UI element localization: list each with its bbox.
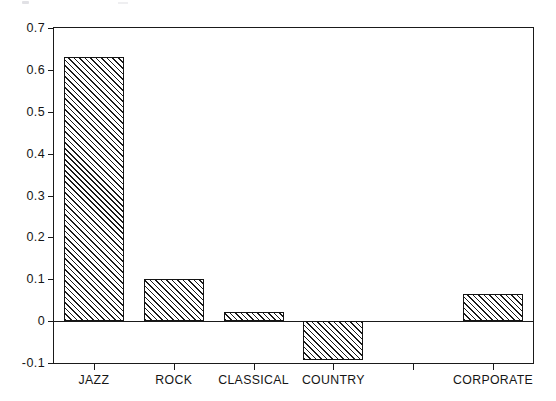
x-axis-tick [174,363,175,370]
x-axis-tick [254,363,255,370]
bar [64,57,124,321]
scan-artifact [22,1,29,4]
y-axis-tick-label: 0.3 [26,189,45,202]
x-axis-tick-label: COUNTRY [302,374,365,386]
x-axis-tick [333,363,334,370]
x-axis-tick [94,363,95,370]
y-axis-tick-label: 0.6 [26,64,45,77]
bar [144,279,204,321]
y-axis-tick-label: 0.1 [26,273,45,286]
bar [224,312,284,321]
y-axis-tick-label: 0.4 [26,147,45,160]
bar-series [54,28,533,363]
x-axis-tick [413,363,414,370]
x-axis-tick-label: ROCK [155,374,192,386]
bar-chart-figure: -0.100.10.20.30.40.50.60.7 JAZZROCKCLASS… [0,0,556,401]
y-axis-tick [48,363,54,364]
scan-artifact [118,2,128,4]
y-axis-tick-label: 0.7 [26,22,45,35]
y-axis-tick-label: 0.2 [26,231,45,244]
plot-area: -0.100.10.20.30.40.50.60.7 JAZZROCKCLASS… [53,27,534,364]
y-axis-tick-label: 0.5 [26,106,45,119]
x-axis-tick-label: CORPORATE [453,374,533,386]
y-axis-tick-label: 0 [38,315,45,328]
x-axis-tick [493,363,494,370]
x-axis-tick-label: JAZZ [79,374,110,386]
bar [463,294,523,321]
y-axis-tick-label: -0.1 [22,357,45,370]
bar [303,321,363,360]
x-axis-tick-label: CLASSICAL [218,374,289,386]
